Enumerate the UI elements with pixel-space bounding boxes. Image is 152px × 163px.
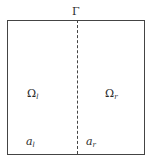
- right-coefficient-label: ar: [86, 136, 96, 151]
- left-coefficient-label: al: [26, 136, 35, 151]
- right-region-label: Ωr: [105, 88, 117, 103]
- interface-label-gamma: Γ: [72, 6, 80, 17]
- left-region-label: Ωl: [27, 88, 38, 103]
- interface-dashed-line: [77, 20, 78, 154]
